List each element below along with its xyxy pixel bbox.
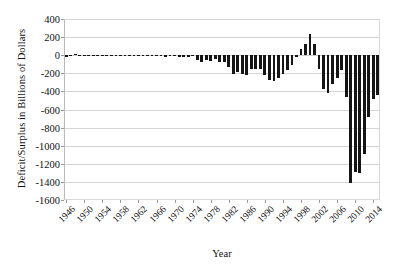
x-tick-mark — [247, 200, 248, 203]
deficit-surplus-bar-chart: Deficit/Surplus in Billions of Dollars 4… — [0, 0, 393, 269]
x-tick-label: 2002 — [310, 204, 331, 225]
plot-area: 4002000-200-400-600-800-1000-1200-1400-1… — [64, 19, 380, 200]
y-axis-title: Deficit/Surplus in Billions of Dollars — [16, 9, 27, 209]
x-tick-label: 1946 — [57, 204, 78, 225]
y-tick-label: 0 — [55, 50, 60, 61]
x-tick-label: 1970 — [165, 204, 186, 225]
y-tick-label: -600 — [41, 104, 60, 115]
x-tick-label: 1994 — [274, 204, 295, 225]
x-tick-mark — [66, 200, 67, 203]
y-tick-label: 200 — [44, 32, 60, 43]
y-tick-label: -1200 — [36, 158, 61, 169]
plot-frame — [64, 19, 380, 200]
x-tick-mark — [157, 200, 158, 203]
x-tick-label: 1950 — [75, 204, 96, 225]
x-tick-mark — [337, 200, 338, 203]
y-tick-label: -1600 — [36, 195, 61, 206]
x-tick-label: 1954 — [93, 204, 114, 225]
x-tick-mark — [301, 200, 302, 203]
x-tick-mark — [265, 200, 266, 203]
x-tick-mark — [373, 200, 374, 203]
x-tick-mark — [138, 200, 139, 203]
x-tick-mark — [120, 200, 121, 203]
x-tick-label: 1990 — [255, 204, 276, 225]
x-tick-label: 1958 — [111, 204, 132, 225]
x-tick-mark — [355, 200, 356, 203]
x-tick-mark — [211, 200, 212, 203]
y-tick-label: -1000 — [36, 140, 61, 151]
x-tick-label: 1986 — [237, 204, 258, 225]
x-tick-label: 2006 — [328, 204, 349, 225]
x-axis-title: Year — [64, 248, 380, 259]
x-tick-label: 1966 — [147, 204, 168, 225]
x-tick-label: 2010 — [346, 204, 367, 225]
x-tick-mark — [84, 200, 85, 203]
x-tick-label: 1962 — [129, 204, 150, 225]
x-tick-mark — [229, 200, 230, 203]
y-tick-label: -200 — [41, 68, 60, 79]
y-tick-mark — [61, 200, 64, 201]
x-tick-label: 2014 — [364, 204, 385, 225]
x-tick-label: 1998 — [292, 204, 313, 225]
x-tick-mark — [283, 200, 284, 203]
y-tick-label: -400 — [41, 86, 60, 97]
x-tick-mark — [175, 200, 176, 203]
x-tick-label: 1978 — [201, 204, 222, 225]
x-tick-mark — [102, 200, 103, 203]
y-tick-label: -1400 — [36, 176, 61, 187]
x-tick-label: 1974 — [183, 204, 204, 225]
x-tick-mark — [193, 200, 194, 203]
x-tick-mark — [319, 200, 320, 203]
x-tick-label: 1982 — [219, 204, 240, 225]
y-tick-label: 400 — [44, 14, 60, 25]
y-tick-label: -800 — [41, 122, 60, 133]
